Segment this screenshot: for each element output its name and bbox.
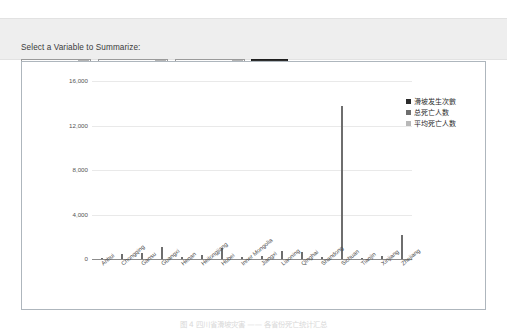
chart-panel: 04,0008,00012,00016,000 AnhuiChongqingGa… bbox=[21, 61, 486, 310]
bars-layer bbox=[92, 59, 412, 259]
y-tick-label: 4,000 bbox=[48, 211, 88, 218]
y-tick: 16,000 bbox=[44, 77, 88, 85]
app-root: Select a Variable to Summarize: Province… bbox=[0, 0, 507, 336]
y-tick-label: 0 bbox=[48, 255, 88, 262]
legend-swatch-icon bbox=[406, 121, 411, 126]
column-chart: 04,0008,00012,00016,000 AnhuiChongqingGa… bbox=[22, 62, 485, 309]
y-tick: 4,000 bbox=[44, 211, 88, 219]
y-tick-label: 8,000 bbox=[48, 166, 88, 173]
y-tick-label: 12,000 bbox=[48, 122, 88, 129]
legend-item: 平均死亡人数 bbox=[406, 118, 484, 128]
legend-swatch-icon bbox=[406, 110, 411, 115]
x-axis-labels: AnhuiChongqingGansuGuangxiHenanHeilongji… bbox=[92, 262, 412, 308]
y-tick-label: 16,000 bbox=[48, 77, 88, 84]
legend-label: 滑坡发生次數 bbox=[414, 96, 456, 106]
y-tick: 8,000 bbox=[44, 166, 88, 174]
y-tick: 0 bbox=[44, 255, 88, 263]
bar bbox=[401, 235, 404, 259]
legend-item: 滑坡发生次數 bbox=[406, 96, 484, 106]
form-panel: Select a Variable to Summarize: Province… bbox=[0, 18, 507, 60]
legend-swatch-icon bbox=[406, 99, 411, 104]
y-tick: 12,000 bbox=[44, 122, 88, 130]
figure-caption: 图 4 四川省滑坡灾害 —— 各省份死亡统计汇总 bbox=[0, 318, 507, 329]
chart-legend: 滑坡发生次數总死亡人数平均死亡人数 bbox=[406, 96, 484, 129]
legend-label: 平均死亡人数 bbox=[414, 118, 456, 128]
bar bbox=[161, 247, 164, 259]
bar bbox=[341, 106, 344, 259]
legend-item: 总死亡人数 bbox=[406, 107, 484, 117]
form-instruction-label: Select a Variable to Summarize: bbox=[21, 43, 140, 52]
legend-label: 总死亡人数 bbox=[414, 107, 449, 117]
